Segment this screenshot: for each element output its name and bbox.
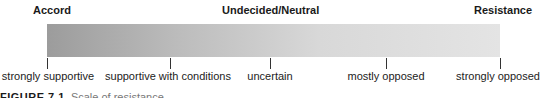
tick-strongly-supportive [47, 58, 48, 69]
figure-number: FIGURE 7.1 [0, 91, 65, 98]
figure-caption-text: Scale of resistance [71, 91, 164, 98]
header-undecided-neutral: Undecided/Neutral [222, 4, 319, 16]
scale-gradient-bar [47, 24, 500, 57]
header-accord: Accord [33, 4, 71, 16]
tick-strongly-opposed [500, 58, 501, 69]
label-supportive-with-conditions: supportive with conditions [105, 70, 231, 82]
header-resistance: Resistance [474, 4, 532, 16]
tick-uncertain [270, 58, 271, 69]
label-mostly-opposed: mostly opposed [347, 70, 424, 82]
tick-supportive-with-conditions [170, 58, 171, 69]
figure-caption: FIGURE 7.1Scale of resistance [0, 91, 164, 98]
tick-mostly-opposed [386, 58, 387, 69]
label-uncertain: uncertain [247, 70, 292, 82]
label-strongly-opposed: strongly opposed [456, 70, 540, 82]
label-strongly-supportive: strongly supportive [2, 70, 94, 82]
